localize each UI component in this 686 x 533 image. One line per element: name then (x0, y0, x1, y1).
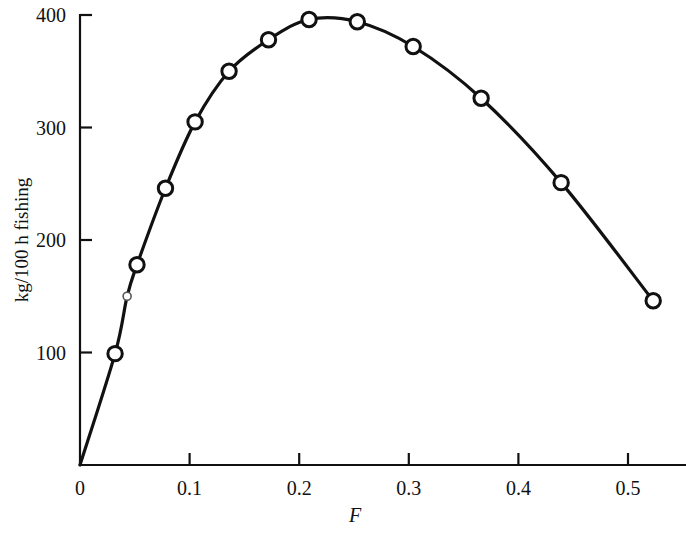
chart-figure: 100200300400 00.10.20.30.40.5 F kg/100 h… (0, 0, 686, 533)
y-axis-ticks (80, 15, 92, 353)
x-tick-label: 0 (75, 477, 85, 499)
y-axis-tick-labels: 100200300400 (36, 4, 66, 364)
y-tick-label: 400 (36, 4, 66, 26)
y-tick-label: 100 (36, 342, 66, 364)
data-point-marker (130, 258, 144, 272)
data-point-marker (123, 292, 131, 300)
data-point-marker (474, 91, 488, 105)
data-point-marker (222, 64, 236, 78)
axes (80, 15, 686, 465)
data-point-marker (554, 175, 568, 189)
x-axis-tick-labels: 00.10.20.30.40.5 (75, 477, 641, 499)
data-point-marker (158, 181, 172, 195)
x-tick-label: 0.3 (396, 477, 421, 499)
x-tick-label: 0.4 (506, 477, 531, 499)
x-tick-label: 0.1 (177, 477, 202, 499)
data-curve (80, 18, 653, 465)
y-tick-label: 300 (36, 117, 66, 139)
x-axis-ticks (190, 453, 628, 465)
x-axis-title: F (348, 504, 362, 526)
data-point-marker (261, 33, 275, 47)
data-point-marker (302, 12, 316, 26)
data-point-marker (350, 15, 364, 29)
yield-vs-fishing-mortality-chart: 100200300400 00.10.20.30.40.5 F kg/100 h… (0, 0, 686, 533)
x-tick-label: 0.2 (287, 477, 312, 499)
data-point-markers (108, 12, 661, 361)
y-axis-title: kg/100 h fishing (11, 177, 32, 302)
data-point-marker (188, 115, 202, 129)
data-point-marker (646, 294, 660, 308)
y-tick-label: 200 (36, 229, 66, 251)
data-point-marker (406, 39, 420, 53)
data-point-marker (108, 346, 122, 360)
x-tick-label: 0.5 (616, 477, 641, 499)
